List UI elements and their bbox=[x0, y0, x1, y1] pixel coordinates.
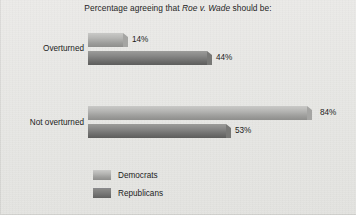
legend-swatch-republicans bbox=[93, 188, 111, 198]
bar-body bbox=[88, 51, 207, 65]
bar-body bbox=[88, 106, 307, 120]
bar-end-cap bbox=[226, 124, 231, 138]
bar-end-cap bbox=[123, 33, 128, 47]
bar-not-overturned-republicans bbox=[88, 124, 231, 138]
bar-chart: Percentage agreeing that Roe v. Wade sho… bbox=[0, 0, 356, 215]
value-label-overturned-democrats: 14% bbox=[132, 33, 148, 47]
bar-overturned-democrats bbox=[88, 33, 128, 47]
value-label-overturned-republicans: 44% bbox=[216, 51, 232, 65]
category-label-not-overturned: Not overturned bbox=[30, 118, 84, 127]
category-label-overturned: Overturned bbox=[43, 44, 84, 53]
value-label-not-overturned-republicans: 53% bbox=[235, 124, 251, 138]
bar-overturned-republicans bbox=[88, 51, 212, 65]
value-label-not-overturned-democrats: 84% bbox=[320, 106, 336, 120]
legend-label-republicans: Republicans bbox=[118, 185, 163, 202]
bar-not-overturned-democrats bbox=[88, 106, 312, 120]
bar-body bbox=[88, 33, 123, 47]
plot-area: Overturned 14% 44% Not overturned 84% bbox=[0, 0, 356, 215]
legend-swatch-democrats bbox=[93, 170, 111, 180]
bar-body bbox=[88, 124, 226, 138]
legend-label-democrats: Democrats bbox=[118, 167, 158, 184]
bar-end-cap bbox=[307, 106, 312, 120]
bar-end-cap bbox=[207, 51, 212, 65]
